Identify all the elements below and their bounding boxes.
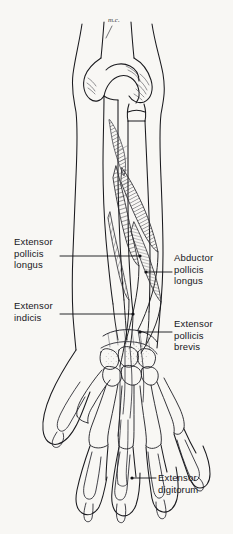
handwritten-annotation: m.c.: [108, 16, 120, 24]
label-extensor-pollicis-longus: Extensor pollicis longus: [14, 236, 53, 271]
fingers: [43, 350, 210, 523]
label-extensor-pollicis-brevis: Extensor pollicis brevis: [174, 318, 213, 353]
shading-accents: [104, 341, 149, 369]
anatomical-figure: m.c. Extensor pollicis longusExtensor in…: [0, 0, 233, 534]
leader-anchor-extensor-digitorum: [130, 476, 133, 479]
label-abductor-pollicis-longus: Abductor pollicis longus: [174, 252, 213, 287]
leader-anchor-extensor-pollicis-brevis: [138, 330, 141, 333]
label-extensor-indicis: Extensor indicis: [14, 300, 53, 323]
extensor-muscle-bellies: [108, 120, 161, 302]
leader-anchor-extensor-indicis: [131, 312, 134, 315]
humerus-elbow: [84, 22, 153, 103]
label-extensor-digitorum: Extensor digitorum: [158, 472, 198, 495]
annotation-pointer: [106, 26, 112, 38]
leader-anchor-extensor-pollicis-longus: [138, 254, 141, 257]
leader-anchor-abductor-pollicis-longus: [144, 270, 147, 273]
